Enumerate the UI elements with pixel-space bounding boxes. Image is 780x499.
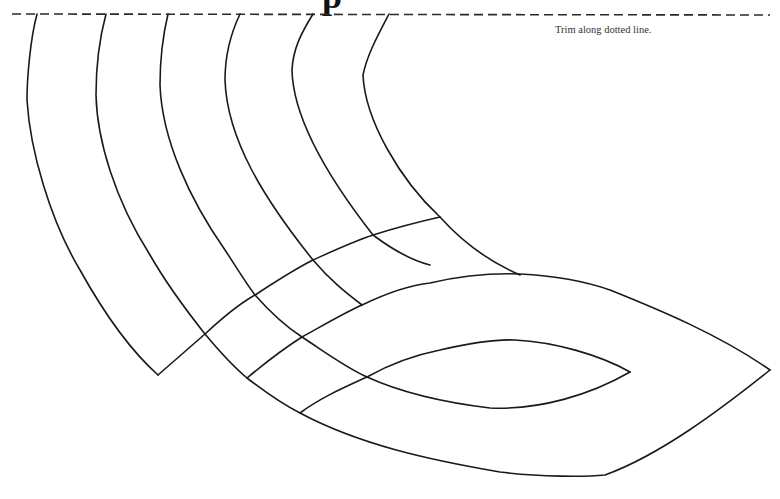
strip-line-2-mask-outer-edge — [96, 14, 770, 476]
strip-end-cap — [158, 334, 205, 375]
mask-template-drawing — [0, 0, 780, 499]
trim-dotted-line — [12, 14, 770, 15]
strip-line-5 — [292, 14, 430, 265]
cross-band-1 — [205, 217, 440, 334]
cross-band-2-mask-top-edge — [247, 274, 770, 378]
cross-band-3-eye-top — [300, 340, 630, 413]
template-page: p Trim along dotted line. — [0, 0, 780, 499]
strip-line-3-eye-bottom — [160, 14, 630, 408]
strip-line-1 — [27, 14, 158, 375]
strip-line-6 — [363, 14, 520, 275]
